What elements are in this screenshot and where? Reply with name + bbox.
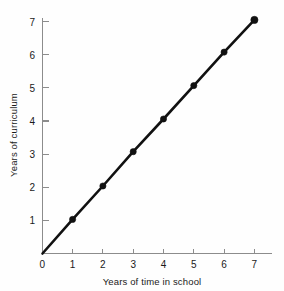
- data-point-marker: [130, 149, 136, 155]
- data-point-marker: [251, 16, 258, 23]
- x-tick-label-4: 4: [161, 259, 167, 270]
- y-tick-label-5: 5: [29, 83, 35, 94]
- y-tick-labels: 1 2 3 4 5 6 7: [29, 17, 35, 227]
- line-chart: 0 1 2 3 4 5 6 7 1 2 3 4 5 6 7: [0, 0, 284, 291]
- data-point-marker: [191, 83, 197, 89]
- data-point-marker: [160, 116, 166, 122]
- x-tick-label-1: 1: [70, 259, 76, 270]
- y-axis-title: Years of curriculum: [8, 93, 19, 177]
- x-tick-label-3: 3: [130, 259, 136, 270]
- y-tick-label-4: 4: [29, 116, 35, 127]
- y-tick-label-3: 3: [29, 149, 35, 160]
- data-point-marker: [100, 183, 106, 189]
- x-axis-title: Years of time in school: [103, 276, 202, 287]
- x-tick-label-7: 7: [252, 259, 258, 270]
- data-point-marker: [70, 216, 76, 222]
- x-tick-label-6: 6: [221, 259, 227, 270]
- y-tick-label-6: 6: [29, 50, 35, 61]
- axis-group: [43, 18, 273, 254]
- y-tick-label-2: 2: [29, 182, 35, 193]
- x-tick-marks: [73, 249, 255, 254]
- chart-figure: 0 1 2 3 4 5 6 7 1 2 3 4 5 6 7: [0, 0, 284, 291]
- x-tick-labels: 0 1 2 3 4 5 6 7: [40, 259, 258, 270]
- series-group: [43, 16, 259, 253]
- y-tick-label-1: 1: [29, 215, 35, 226]
- x-tick-label-0: 0: [40, 259, 46, 270]
- x-tick-label-5: 5: [191, 259, 197, 270]
- data-point-marker: [221, 49, 227, 55]
- y-tick-marks: [43, 22, 49, 221]
- x-tick-label-2: 2: [100, 259, 106, 270]
- y-tick-label-7: 7: [29, 17, 35, 28]
